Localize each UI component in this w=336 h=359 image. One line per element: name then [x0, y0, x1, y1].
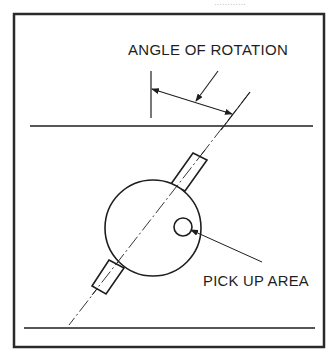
- pick-up-area-leader: [191, 230, 262, 262]
- angle-of-rotation-label: ANGLE OF ROTATION: [128, 41, 288, 58]
- axis-extension-line: [221, 92, 250, 130]
- rotation-diagram: ………… ANGLE OF ROTATION PICK UP AREA: [0, 0, 336, 359]
- angle-dimension-arrow: [152, 89, 232, 114]
- pick-up-area-circle: [174, 218, 192, 236]
- angle-leader-arrow: [196, 71, 218, 101]
- pick-up-area-label: PICK UP AREA: [203, 272, 309, 289]
- diagram-frame: [14, 14, 324, 347]
- header-fragment: …………: [214, 0, 246, 7]
